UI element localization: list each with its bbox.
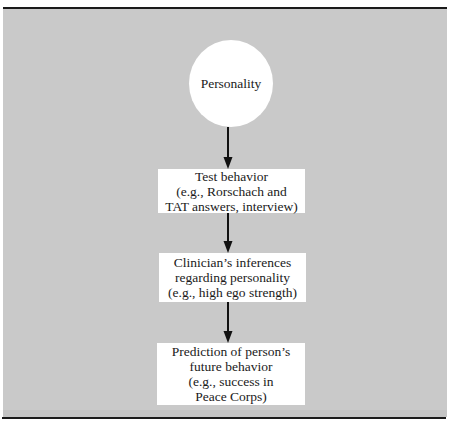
node-line: regarding personality <box>175 270 290 285</box>
panel-bottom-shade <box>3 410 447 417</box>
node-line: future behavior <box>190 359 273 374</box>
node-line: (e.g., high ego strength) <box>168 285 297 300</box>
personality-label: Personality <box>201 76 262 92</box>
down-arrow-icon <box>222 127 234 169</box>
arrow-test-behavior-to-inferences <box>222 213 234 253</box>
node-line: TAT answers, interview) <box>165 199 298 214</box>
node-line: Prediction of person’s <box>172 344 290 359</box>
bottom-rule <box>2 417 446 419</box>
down-arrow-icon <box>222 302 234 343</box>
node-line: Test behavior <box>195 169 268 184</box>
arrow-personality-to-test-behavior <box>222 127 234 169</box>
node-line: (e.g., success in <box>188 374 273 389</box>
test-behavior-node: Test behavior (e.g., Rorschach and TAT a… <box>158 169 305 213</box>
clinician-inferences-node: Clinician’s inferences regarding persona… <box>159 253 306 302</box>
node-line: (e.g., Rorschach and <box>176 184 287 199</box>
prediction-node: Prediction of person’s future behavior (… <box>157 343 305 405</box>
personality-node: Personality <box>189 40 273 127</box>
arrow-inferences-to-prediction <box>222 302 234 343</box>
node-line: Clinician’s inferences <box>174 255 291 270</box>
down-arrow-icon <box>222 213 234 253</box>
node-line: Peace Corps) <box>195 389 267 404</box>
